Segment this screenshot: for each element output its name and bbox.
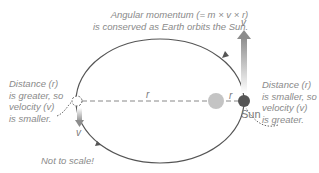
r-label-right: r [229,90,232,101]
velocity-arrow-down-shaft [77,108,82,122]
title-annotation: Angular momentum (= m × v × r) is conser… [93,9,248,32]
earth-aphelion [72,96,82,106]
sun-circle [208,93,224,109]
scale-note: Not to scale! [41,155,94,167]
v-label-top: v [241,17,246,28]
aphelion-note: Distance (r) is greater, so velocity (v)… [9,78,63,124]
perihelion-note: Distance (r) is smaller, so velocity (v)… [262,79,317,125]
v-label-bottom: v [76,127,81,138]
orbit-arrow-top-icon [222,51,229,58]
velocity-arrow-up-shaft [241,37,247,93]
r-label-left: r [146,89,149,100]
earth-perihelion [238,95,250,107]
sun-label: Sun [241,108,261,120]
